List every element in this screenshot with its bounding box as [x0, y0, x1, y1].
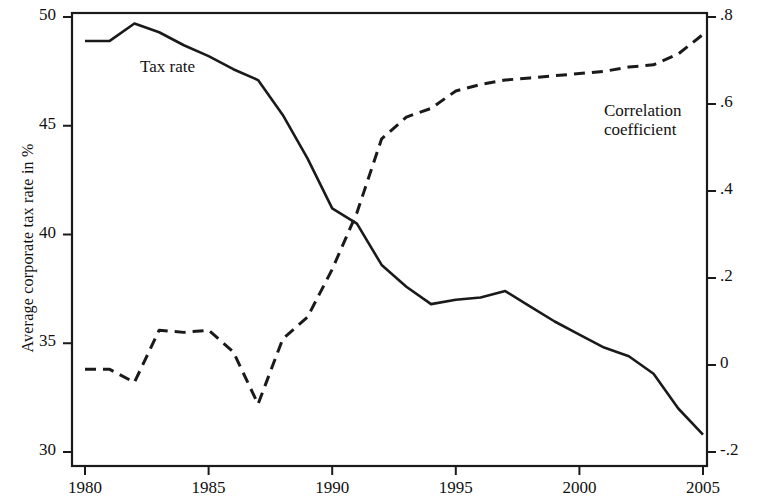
plot-area — [0, 0, 780, 503]
y-axis-left-tick-label: 50 — [16, 5, 56, 25]
y-axis-right-tick-label: -.2 — [720, 440, 766, 460]
y-axis-right-tick-label: .4 — [720, 179, 766, 199]
y-axis-right-tick-label: .8 — [720, 5, 766, 25]
data-series-group — [85, 24, 703, 435]
x-axis-tick-label: 1985 — [174, 478, 244, 498]
x-axis-tick-label: 2005 — [668, 478, 738, 498]
y-axis-right-tick-label: .2 — [720, 266, 766, 286]
plot-border — [72, 13, 707, 466]
y-axis-right-tick-label: 0 — [720, 353, 766, 373]
y-axis-left-tick-label: 35 — [16, 331, 56, 351]
x-axis-tick-label: 1980 — [50, 478, 120, 498]
y-axis-left-tick-label: 40 — [16, 223, 56, 243]
series-tax-rate — [85, 24, 703, 435]
x-axis-tick-label: 1995 — [421, 478, 491, 498]
x-axis-tick-label: 2000 — [544, 478, 614, 498]
y-axis-right-tick-label: .6 — [720, 92, 766, 112]
chart-figure: Average corporate tax rate in % Correlat… — [0, 0, 780, 503]
plot-frame — [72, 13, 707, 466]
x-axis-tick-label: 1990 — [297, 478, 367, 498]
y-axis-left-tick-label: 45 — [16, 114, 56, 134]
y-axis-left-tick-label: 30 — [16, 440, 56, 460]
axis-ticks — [63, 17, 716, 475]
